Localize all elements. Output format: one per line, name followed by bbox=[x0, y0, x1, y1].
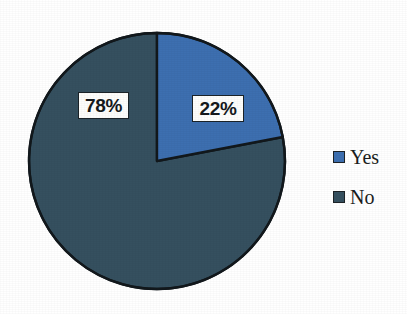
pie-data-label-yes: 22% bbox=[192, 95, 244, 122]
legend-item-no[interactable]: No bbox=[333, 186, 379, 208]
pie-chart-figure: 78% 22% Yes No bbox=[0, 0, 407, 314]
legend-item-yes[interactable]: Yes bbox=[333, 146, 379, 168]
pie-data-label-no: 78% bbox=[78, 92, 129, 119]
chart-legend: Yes No bbox=[333, 146, 379, 226]
legend-label-no: No bbox=[350, 187, 374, 207]
square-swatch-icon bbox=[333, 191, 345, 203]
legend-label-yes: Yes bbox=[350, 147, 379, 167]
square-swatch-icon bbox=[333, 151, 345, 163]
